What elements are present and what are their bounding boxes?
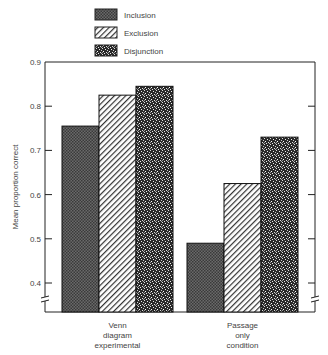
y-tick-label: 0.9: [30, 58, 42, 67]
y-tick-label: 0.6: [30, 191, 42, 200]
bar-exclusion: [99, 95, 136, 312]
bar-inclusion: [62, 126, 99, 312]
y-tick-label: 0.8: [30, 102, 42, 111]
x-category-label: Venn: [108, 321, 126, 330]
x-axis-labels: VenndiagramexperimentalPassageonlycondit…: [95, 321, 259, 350]
x-category-label: experimental: [95, 341, 141, 350]
legend-label: Inclusion: [124, 11, 156, 20]
legend-swatch: [95, 45, 117, 56]
x-category-label: Passage: [227, 321, 259, 330]
y-tick-label: 0.5: [30, 235, 42, 244]
y-tick-label: 0.4: [30, 279, 42, 288]
legend-label: Disjunction: [124, 47, 163, 56]
bar-inclusion: [187, 243, 224, 312]
x-category-label: diagram: [103, 331, 132, 340]
bar-disjunction: [261, 137, 298, 312]
bar-exclusion: [224, 184, 261, 312]
bar-chart: InclusionExclusionDisjunction 0.40.50.60…: [0, 0, 328, 355]
x-category-label: condition: [226, 341, 258, 350]
x-category-label: only: [235, 331, 250, 340]
chart-bars: [62, 86, 298, 312]
y-tick-label: 0.7: [30, 146, 42, 155]
bar-disjunction: [136, 86, 173, 312]
chart-legend: InclusionExclusionDisjunction: [95, 9, 163, 56]
legend-swatch: [95, 27, 117, 38]
y-axis-label: Mean proportion correct: [11, 144, 20, 230]
legend-swatch: [95, 9, 117, 20]
legend-label: Exclusion: [124, 29, 158, 38]
